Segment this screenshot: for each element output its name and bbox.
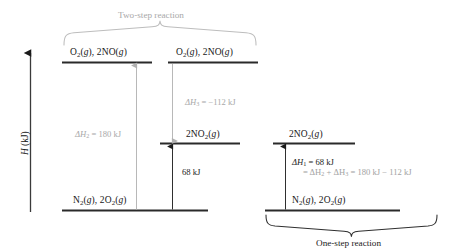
- delta-h1-equation-block: ΔH1 = 68 kJ = ΔH2 + ΔH3 = 180 kJ − 112 k…: [292, 157, 412, 178]
- one-step-brace: [266, 215, 437, 236]
- diagram-vector-layer: [0, 0, 450, 251]
- two-step-reaction-label: Two-step reaction: [118, 10, 184, 21]
- level-label-n2-2o2-onestep: N2(g), 2O2(g): [292, 195, 346, 206]
- y-axis-units: (kJ): [20, 131, 30, 146]
- delta-h2-label: ΔH2 = 180 kJ: [75, 130, 121, 140]
- y-axis-label: H (kJ): [20, 131, 30, 155]
- y-axis-symbol: H: [20, 148, 30, 155]
- delta-h1-sum-line: = ΔH2 + ΔH3 = 180 kJ − 112 kJ: [292, 167, 412, 177]
- delta-h3-label: ΔH3 = −112 kJ: [185, 98, 236, 108]
- delta-h1-line: ΔH1 = 68 kJ: [292, 157, 412, 167]
- level-label-n2-2o2-left: N2(g), 2O2(g): [73, 195, 127, 206]
- left-panel-arrows: [137, 64, 173, 210]
- one-step-reaction-label: One-step reaction: [316, 238, 381, 249]
- enthalpy-diagram-figure: H (kJ) Two-step reaction O2(g), 2NO(g) O…: [0, 0, 450, 251]
- level-label-2no2-onestep: 2NO2(g): [289, 129, 323, 140]
- net-68kj-label: 68 kJ: [182, 168, 200, 178]
- level-label-2no2-middle: 2NO2(g): [186, 129, 220, 140]
- level-label-o2-2no-left: O2(g), 2NO(g): [70, 47, 127, 58]
- two-step-brace: [64, 21, 256, 45]
- level-label-o2-2no-right: O2(g), 2NO(g): [176, 47, 233, 58]
